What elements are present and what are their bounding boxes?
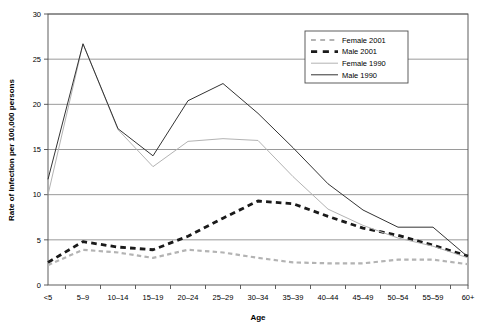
y-tick-label: 5 xyxy=(37,236,41,245)
x-tick-label: 55–59 xyxy=(423,293,444,302)
x-tick-label: 20–24 xyxy=(178,293,199,302)
x-tick-label: 10–14 xyxy=(108,293,129,302)
series-line xyxy=(48,201,468,262)
chart-container: 051015202530 <55–910–1415–1920–2425–2930… xyxy=(0,0,503,328)
y-axis-title: Rate of Infection per 100,000 persons xyxy=(7,79,16,221)
x-tick-label: 35–39 xyxy=(283,293,304,302)
x-tick-label: 40–44 xyxy=(318,293,339,302)
y-axis-ticks xyxy=(44,14,48,285)
y-tick-label: 30 xyxy=(33,10,41,19)
x-axis-tick-labels: <55–910–1415–1920–2425–2930–3435–3940–44… xyxy=(44,293,475,302)
x-tick-label: 30–34 xyxy=(248,293,269,302)
x-tick-label: <5 xyxy=(44,293,53,302)
y-tick-label: 10 xyxy=(33,190,41,199)
y-tick-label: 20 xyxy=(33,100,41,109)
legend-item-label: Female 2001 xyxy=(342,36,386,45)
y-tick-label: 0 xyxy=(37,281,41,290)
x-axis-ticks xyxy=(66,285,469,289)
legend-item-label: Male 2001 xyxy=(342,47,377,56)
series-line xyxy=(48,250,468,265)
x-tick-label: 45–49 xyxy=(353,293,374,302)
x-tick-label: 15–19 xyxy=(143,293,164,302)
line-chart: 051015202530 <55–910–1415–1920–2425–2930… xyxy=(0,0,503,328)
y-tick-label: 15 xyxy=(33,145,41,154)
legend-item-label: Male 1990 xyxy=(342,71,377,80)
x-tick-label: 5–9 xyxy=(77,293,90,302)
x-tick-label: 25–29 xyxy=(213,293,234,302)
legend-item-label: Female 1990 xyxy=(342,59,386,68)
legend: Female 2001Male 2001Female 1990Male 1990 xyxy=(305,31,408,83)
y-axis-tick-labels: 051015202530 xyxy=(33,10,41,290)
x-tick-label: 60+ xyxy=(462,293,475,302)
x-tick-label: 50–54 xyxy=(388,293,409,302)
x-axis-title: Age xyxy=(250,313,266,322)
y-tick-label: 25 xyxy=(33,55,41,64)
